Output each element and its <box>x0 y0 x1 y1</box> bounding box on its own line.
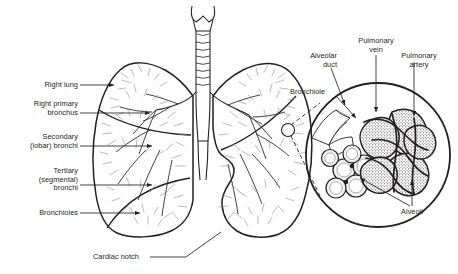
label-alveolar-duct: Alveolar duct <box>291 52 337 69</box>
left-lung-fissure <box>221 96 296 150</box>
right-lung-outline <box>93 63 193 237</box>
label-right-lung: Right lung <box>6 81 78 90</box>
label-secondary-lobar-bronchi: Secondary (lobar) bronchi <box>0 133 78 150</box>
label-pulmonary-artery: Pulmonary artery <box>390 52 448 69</box>
capillary-network <box>360 109 436 195</box>
lung-diagram: Right lung Right primary bronchus Second… <box>0 0 458 274</box>
bronchial-tree-main <box>156 92 249 180</box>
right-bronchial-branches <box>116 94 178 216</box>
label-cardiac-notch: Cardiac notch <box>93 253 153 262</box>
label-bronchiole: Bronchiole <box>290 88 348 97</box>
detail-source-circle <box>282 124 295 137</box>
leader-cardiac-notch <box>150 232 221 257</box>
trachea-group <box>191 6 214 92</box>
label-bronchioles: Bronchioles <box>4 209 78 218</box>
label-tertiary-segmental-bronchi: Tertiary (segmental) bronchi <box>0 167 78 193</box>
label-alveoli: Alveoli <box>388 208 436 217</box>
right-lung-fissures <box>99 110 191 228</box>
label-right-primary-bronchus: Right primary bronchus <box>0 100 78 117</box>
inset-contents <box>312 109 436 198</box>
